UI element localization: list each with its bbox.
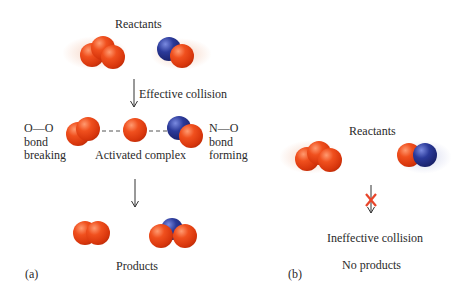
no-products-label: No products — [342, 259, 401, 271]
bond-label-left: bond — [24, 136, 48, 148]
effective-collision-label: Effective collision — [139, 88, 227, 100]
panel-a-letter: (a) — [25, 268, 38, 280]
down-arrow-icon — [129, 79, 139, 109]
reactants-label-a: Reactants — [115, 18, 162, 30]
oo-formula: O—O — [24, 122, 53, 134]
blocked-arrow-icon — [365, 185, 377, 215]
no-formula: N—O — [209, 122, 238, 134]
products-label: Products — [116, 260, 158, 272]
forming-label: forming — [209, 149, 248, 161]
activated-complex-label: Activated complex — [95, 149, 186, 161]
bond-label-right: bond — [209, 136, 233, 148]
ineffective-collision-label: Ineffective collision — [327, 232, 423, 244]
down-arrow-icon — [130, 179, 140, 209]
reactants-label-b: Reactants — [349, 125, 396, 137]
panel-b-letter: (b) — [288, 268, 302, 280]
breaking-label: breaking — [24, 149, 66, 161]
